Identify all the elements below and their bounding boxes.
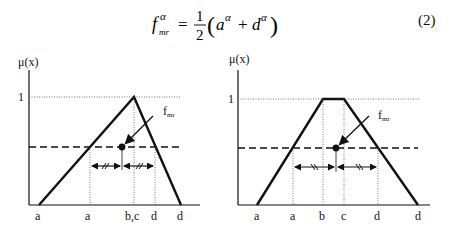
x-label-c: c (341, 209, 346, 223)
fmr-label: fmr (378, 108, 390, 123)
x-label-b: b (319, 209, 325, 223)
x-label-d: d (415, 209, 421, 223)
x-label-bc: b,c (125, 209, 139, 223)
x-label-d-alpha: d (374, 209, 380, 223)
x-label-d: d (177, 209, 183, 223)
trapezoidal-diagram: μ(x) 1 fmr a a b c d d (228, 52, 430, 223)
fmr-label: fmr (163, 104, 175, 119)
fmr-point (119, 144, 126, 151)
y-axis-label: μ(x) (18, 55, 38, 69)
fmr-point (333, 145, 340, 152)
trapezoid-membership-shape (257, 99, 418, 205)
triangular-diagram: μ(x) 1 fmr a a b,c d d (18, 55, 200, 223)
x-label-a: a (35, 209, 41, 223)
x-label-d-alpha: d (151, 209, 157, 223)
y-axis-label: μ(x) (229, 52, 249, 66)
triangle-membership-shape (39, 97, 181, 205)
membership-diagrams: μ(x) 1 fmr a a b,c d d (0, 0, 451, 238)
x-label-a-alpha: a (85, 209, 91, 223)
x-label-a: a (254, 209, 260, 223)
y-tick-1: 1 (228, 92, 234, 106)
y-tick-1: 1 (18, 90, 24, 104)
x-label-a-alpha: a (290, 209, 296, 223)
